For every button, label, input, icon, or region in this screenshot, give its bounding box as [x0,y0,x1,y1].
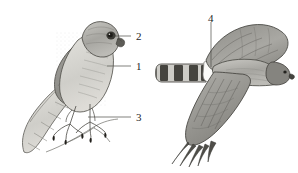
label-2: 2 [136,31,142,42]
label-4: 4 [208,13,214,24]
bird-anatomy-figure: 2 1 3 4 [0,0,298,173]
eye-marking [106,32,115,40]
flying-tail-barred [155,64,207,82]
illustration-canvas [0,0,298,173]
flying-eye [283,71,286,74]
label-3: 3 [136,112,142,123]
label-1: 1 [136,61,142,72]
